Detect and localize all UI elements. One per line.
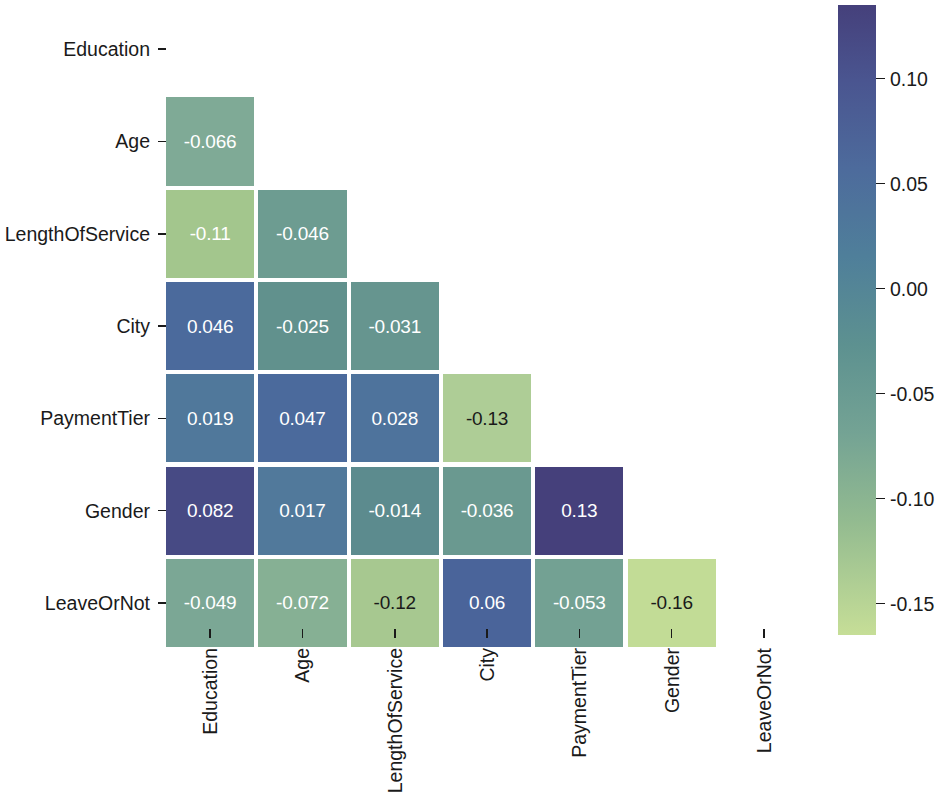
heatmap-cell: -0.066 xyxy=(166,97,254,185)
y-tick-mark xyxy=(158,233,166,235)
y-axis: EducationAgeLengthOfServiceCityPaymentTi… xyxy=(0,0,150,805)
x-tick-label-city: City xyxy=(476,648,499,682)
y-tick-mark xyxy=(158,48,166,50)
x-tick-mark xyxy=(486,629,488,638)
colorbar-tick-mark xyxy=(876,498,885,500)
y-tick-label-lengthofservice: LengthOfService xyxy=(5,222,150,245)
heatmap-cell-value: -0.036 xyxy=(461,501,514,520)
colorbar-tick-label: -0.10 xyxy=(890,487,934,510)
y-tick-label-paymenttier: PaymentTier xyxy=(40,407,150,430)
heatmap-cell-value: -0.049 xyxy=(184,593,237,612)
colorbar-tick-mark xyxy=(876,288,885,290)
colorbar-gradient xyxy=(838,5,876,635)
y-tick-label-education: Education xyxy=(63,38,150,61)
heatmap-cell-value: 0.017 xyxy=(279,501,326,520)
x-tick-mark xyxy=(302,629,304,638)
colorbar-tick-mark xyxy=(876,78,885,80)
x-tick-label-lengthofservice: LengthOfService xyxy=(383,648,406,793)
heatmap-cell: 0.13 xyxy=(535,467,623,555)
x-tick-label-leaveornot: LeaveOrNot xyxy=(752,648,775,753)
heatmap-cell: -0.13 xyxy=(443,374,531,462)
x-tick-label-paymenttier: PaymentTier xyxy=(568,648,591,758)
y-tick-mark xyxy=(158,418,166,420)
x-tick-mark xyxy=(209,629,211,638)
heatmap-cell: 0.019 xyxy=(166,374,254,462)
heatmap-cell: -0.036 xyxy=(443,467,531,555)
colorbar-tick-label: 0.05 xyxy=(890,172,928,195)
heatmap-cell: 0.082 xyxy=(166,467,254,555)
heatmap-cell-value: -0.072 xyxy=(276,593,329,612)
colorbar-tick-label: 0.10 xyxy=(890,67,928,90)
heatmap-cell-value: -0.066 xyxy=(184,132,237,151)
heatmap-cell: -0.025 xyxy=(258,282,346,370)
heatmap-cell-value: 0.047 xyxy=(279,409,326,428)
heatmap-cell-value: 0.019 xyxy=(187,409,234,428)
heatmap-cell-value: 0.046 xyxy=(187,317,234,336)
heatmap-cell-value: -0.11 xyxy=(190,224,231,243)
colorbar[interactable]: 0.100.050.00-0.05-0.10-0.15 xyxy=(838,5,937,645)
heatmap-cell-value: 0.13 xyxy=(561,501,597,520)
y-tick-mark xyxy=(158,602,166,604)
y-tick-label-city: City xyxy=(116,315,150,338)
heatmap-cell: 0.046 xyxy=(166,282,254,370)
heatmap-cell: 0.047 xyxy=(258,374,346,462)
heatmap-cell-value: -0.16 xyxy=(650,593,692,612)
heatmap-cell-value: 0.06 xyxy=(469,593,505,612)
heatmap-cell-value: -0.031 xyxy=(368,317,421,336)
x-tick-mark xyxy=(579,629,581,638)
heatmap-cell-value: -0.046 xyxy=(276,224,329,243)
heatmap-cell-value: -0.053 xyxy=(553,593,606,612)
colorbar-tick-mark xyxy=(876,393,885,395)
y-tick-mark xyxy=(158,141,166,143)
x-tick-mark xyxy=(763,629,765,638)
x-tick-label-age: Age xyxy=(291,648,314,683)
heatmap-cell: -0.046 xyxy=(258,190,346,278)
heatmap-cell-value: -0.025 xyxy=(276,317,329,336)
heatmap-cell-value: -0.13 xyxy=(466,409,508,428)
x-tick-mark xyxy=(671,629,673,638)
colorbar-tick-mark xyxy=(876,603,885,605)
y-tick-mark xyxy=(158,510,166,512)
heatmap-cell-value: -0.014 xyxy=(368,501,421,520)
heatmap-cell: -0.11 xyxy=(166,190,254,278)
x-tick-mark xyxy=(394,629,396,638)
heatmap-cell: 0.028 xyxy=(351,374,439,462)
heatmap-cell-value: 0.028 xyxy=(371,409,418,428)
heatmap-cell: 0.017 xyxy=(258,467,346,555)
heatmap-plot-area: -0.066-0.11-0.0460.046-0.025-0.0310.0190… xyxy=(166,5,720,625)
y-tick-label-leaveornot: LeaveOrNot xyxy=(45,591,150,614)
y-tick-mark xyxy=(158,325,166,327)
heatmap-cell: -0.031 xyxy=(351,282,439,370)
y-tick-label-age: Age xyxy=(115,130,150,153)
colorbar-tick-label: -0.05 xyxy=(890,382,934,405)
y-tick-label-gender: Gender xyxy=(85,499,150,522)
heatmap-cell-value: -0.12 xyxy=(374,593,416,612)
correlation-heatmap-figure: EducationAgeLengthOfServiceCityPaymentTi… xyxy=(0,0,937,805)
colorbar-tick-label: 0.00 xyxy=(890,277,928,300)
colorbar-tick-label: -0.15 xyxy=(890,592,934,615)
x-tick-label-education: Education xyxy=(199,648,222,735)
colorbar-tick-mark xyxy=(876,183,885,185)
heatmap-cell-value: 0.082 xyxy=(187,501,234,520)
x-tick-label-gender: Gender xyxy=(660,648,683,713)
heatmap-cell: -0.014 xyxy=(351,467,439,555)
